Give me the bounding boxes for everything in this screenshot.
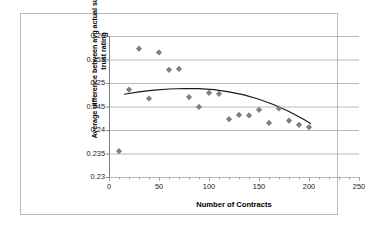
plot-area [109,36,359,177]
x-axis-tick-label: 100 [194,182,224,191]
data-point-marker [206,90,212,96]
x-axis-tick-labels: 050100150200250 [109,182,359,194]
gridlines [109,37,359,178]
x-axis-title: Number of Contracts [109,200,359,209]
y-axis-tick-label: 0.23 [73,173,105,181]
data-point-marker [246,112,252,118]
y-axis-tick-label: 0.24 [73,126,105,134]
x-axis-tick-label: 0 [94,182,124,191]
data-point-marker [256,107,262,113]
data-point-marker [216,91,222,97]
data-point-marker [186,94,192,100]
x-axis-title-label: Number of Contracts [196,200,272,209]
data-point-marker [226,116,232,122]
data-point-marker [166,67,172,73]
data-point-marker [136,46,142,52]
data-point-marker [266,120,272,126]
y-axis-tick-label: 0.26 [73,32,105,40]
x-axis-tick-label: 150 [244,182,274,191]
x-axis-tick-label: 200 [294,182,324,191]
data-point-marker [236,112,242,118]
y-axis-tick-label: 0.255 [73,56,105,64]
data-point-marker [286,118,292,124]
y-axis-tick-label: 0.235 [73,150,105,158]
data-point-marker [176,66,182,72]
plot-canvas [109,36,359,177]
data-point-marker [146,95,152,101]
x-axis-tick-label: 50 [144,182,174,191]
data-point-marker [296,122,302,128]
x-axis-tick-label: 250 [344,182,370,191]
data-point-markers [116,46,312,155]
data-point-marker [116,148,122,154]
chart-frame: Average difference between avg actual su… [20,13,338,215]
data-point-marker [126,86,132,92]
y-axis-tick-label: 0.25 [73,79,105,87]
y-axis-tick-label: 0.245 [73,103,105,111]
data-point-marker [196,104,202,110]
data-point-marker [156,49,162,55]
data-point-marker [306,124,312,130]
